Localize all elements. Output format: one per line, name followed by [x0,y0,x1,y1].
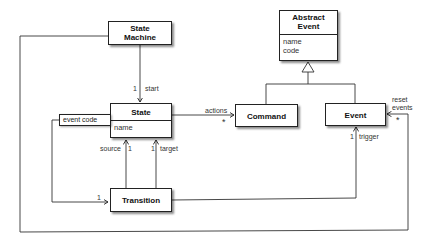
compartment-divider [280,34,337,35]
class-transition[interactable]: Transition [110,188,172,212]
class-title: Event [326,111,385,120]
generalization-triangle-icon [302,62,314,72]
uml-diagram: State Machine Abstract Event name code S… [0,0,430,243]
class-state-machine[interactable]: State Machine [108,21,172,45]
target-role: target [160,145,178,153]
attribute-name: name [111,123,171,132]
trigger-role: trigger [359,133,379,141]
attribute-code: code [280,46,337,55]
class-title: Transition [111,196,171,205]
trigger-multiplicity: 1 [350,133,354,141]
source-multiplicity: 1 [128,145,132,153]
class-event[interactable]: Event [325,103,386,126]
class-command[interactable]: Command [235,104,298,127]
reset-events-role: reset [392,96,408,104]
reset-events-role: events [392,104,413,112]
qualifier-event-code[interactable]: event code [59,114,111,126]
actions-role: actions [205,107,227,115]
class-title: Abstract [280,13,337,22]
actions-multiplicity: * [222,118,226,126]
compartment-divider [111,120,171,121]
class-title: State [111,108,171,117]
class-title: Machine [109,33,171,42]
class-state[interactable]: State name [110,103,172,138]
start-multiplicity: 1 [133,85,137,93]
source-role: source [100,145,121,153]
reset-events-multiplicity: * [396,116,400,124]
target-multiplicity: 1 [151,145,155,153]
class-abstract-event[interactable]: Abstract Event name code [279,10,338,61]
attribute-name: name [280,37,337,46]
start-role: start [145,85,159,93]
transitions-multiplicity: 1 [97,194,101,202]
class-title: Event [280,22,337,31]
class-title: State [109,24,171,33]
class-title: Command [236,112,297,121]
